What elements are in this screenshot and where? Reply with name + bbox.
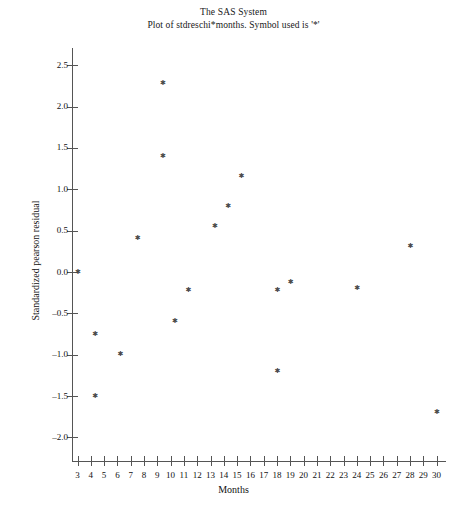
x-axis-tick [184, 456, 185, 466]
data-point [354, 286, 359, 291]
data-point [135, 236, 140, 241]
y-axis-tick [67, 231, 78, 232]
x-axis-tick [383, 456, 384, 466]
x-axis-tick-label: 30 [425, 470, 449, 480]
y-axis-tick-label: 2.0 [28, 102, 68, 111]
x-axis-tick [304, 456, 305, 466]
data-point [239, 174, 244, 179]
x-axis-tick [237, 456, 238, 466]
y-axis-tick [67, 65, 78, 66]
x-axis-tick [357, 456, 358, 466]
x-axis-tick [290, 456, 291, 466]
y-axis-tick [67, 355, 78, 356]
x-axis-tick [330, 456, 331, 466]
scatter-plot-canvas: –2.0–1.5–1.0–0.50.00.51.01.52.02.5 34567… [0, 0, 467, 508]
data-point [172, 319, 177, 324]
y-axis-tick [67, 396, 78, 397]
y-axis-tick [67, 148, 78, 149]
y-axis-tick [67, 189, 78, 190]
data-point [92, 394, 97, 399]
data-point [92, 332, 97, 337]
x-axis-tick [91, 456, 92, 466]
x-axis-label: Months [0, 484, 467, 495]
x-axis-tick [131, 456, 132, 466]
x-axis-tick [410, 456, 411, 466]
x-axis-tick [437, 456, 438, 466]
x-axis-tick [423, 456, 424, 466]
data-point [288, 280, 293, 285]
data-point [160, 81, 165, 86]
x-axis-tick [104, 456, 105, 466]
y-axis-tick-label: –2.0 [28, 433, 68, 442]
data-point [212, 224, 217, 229]
data-point [185, 288, 190, 293]
y-axis-tick-label: –1.5 [28, 392, 68, 401]
y-axis-label: Standardized pearson residual [30, 151, 41, 371]
x-axis-tick [277, 456, 278, 466]
x-axis-tick [197, 456, 198, 466]
x-axis-tick [344, 456, 345, 466]
x-axis-tick [370, 456, 371, 466]
x-axis-tick [224, 456, 225, 466]
x-axis-tick [171, 456, 172, 466]
x-axis-tick [117, 456, 118, 466]
data-point [160, 154, 165, 159]
x-axis-tick [78, 456, 79, 466]
y-axis-tick-label: 2.5 [28, 61, 68, 70]
sas-plot-page: The SAS System Plot of stdreschi*months.… [0, 0, 467, 508]
data-point [434, 410, 439, 415]
x-axis-line [72, 461, 446, 462]
data-point [225, 204, 230, 209]
x-axis-tick [157, 456, 158, 466]
data-point [75, 270, 80, 275]
data-point [118, 352, 123, 357]
x-axis-tick [397, 456, 398, 466]
y-axis-tick [67, 107, 78, 108]
x-axis-tick [250, 456, 251, 466]
x-axis-tick [144, 456, 145, 466]
y-axis-tick [67, 437, 78, 438]
y-axis-line [72, 48, 73, 462]
data-point [275, 288, 280, 293]
data-point [408, 244, 413, 249]
x-axis-tick [317, 456, 318, 466]
x-axis-tick [264, 456, 265, 466]
y-axis-tick [67, 313, 78, 314]
data-point [275, 369, 280, 374]
x-axis-tick [211, 456, 212, 466]
